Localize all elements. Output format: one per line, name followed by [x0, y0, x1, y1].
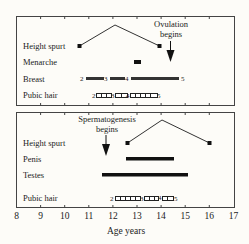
female-pubic-hair-bar: 2 3 4 5	[92, 92, 161, 100]
height-spurt-line	[128, 120, 210, 143]
ovulation-label: Ovulation	[154, 19, 189, 29]
row-label-height-spurt: Height spurt	[23, 138, 66, 148]
svg-text:14: 14	[156, 211, 166, 221]
testes-bar	[102, 173, 188, 177]
svg-text:2: 2	[92, 92, 96, 100]
row-label-pubic-hair: Pubic hair	[23, 90, 58, 100]
svg-text:16: 16	[205, 211, 215, 221]
x-axis: 8 9 10 11 12 13 14 15 16 17 Age years	[14, 211, 238, 236]
row-label-penis: Penis	[23, 154, 41, 164]
svg-text:5: 5	[157, 92, 161, 100]
puberty-timeline-chart: Height spurt Menarche Breast Pubic hair …	[0, 0, 249, 244]
svg-text:17: 17	[229, 211, 239, 221]
svg-text:10: 10	[60, 211, 70, 221]
svg-text:5: 5	[181, 75, 185, 83]
svg-text:13: 13	[132, 211, 142, 221]
row-label-menarche: Menarche	[23, 57, 57, 67]
x-axis-title: Age years	[107, 226, 146, 236]
menarche-bar	[134, 60, 141, 64]
svg-text:3: 3	[111, 92, 115, 100]
row-label-breast: Breast	[23, 74, 45, 84]
penis-bar	[126, 157, 174, 161]
svg-text:11: 11	[84, 211, 93, 221]
arrow-down-icon	[102, 144, 110, 156]
spermatogenesis-label: Spermatogenesis	[78, 114, 136, 124]
svg-text:begins: begins	[96, 124, 118, 134]
svg-text:begins: begins	[160, 29, 182, 39]
male-panel: Height spurt Penis Testes Pubic hair Spe…	[17, 113, 235, 208]
svg-text:15: 15	[180, 211, 190, 221]
row-label-height-spurt: Height spurt	[23, 41, 66, 51]
svg-text:4: 4	[125, 75, 129, 83]
svg-text:4: 4	[158, 194, 162, 202]
svg-text:2: 2	[110, 195, 114, 203]
svg-text:9: 9	[38, 211, 43, 221]
female-panel: Height spurt Menarche Breast Pubic hair …	[17, 17, 235, 106]
svg-text:8: 8	[14, 211, 19, 221]
height-spurt-line	[80, 25, 160, 46]
svg-text:3: 3	[104, 75, 108, 83]
arrow-down-icon	[167, 50, 175, 62]
svg-text:5: 5	[174, 195, 178, 203]
svg-text:3: 3	[140, 195, 144, 203]
row-label-pubic-hair: Pubic hair	[23, 193, 58, 203]
row-label-testes: Testes	[23, 170, 44, 180]
male-pubic-hair-bar: 2 3 4 5	[110, 194, 178, 203]
svg-text:2: 2	[80, 75, 84, 83]
svg-text:12: 12	[108, 211, 118, 221]
svg-text:4: 4	[126, 92, 130, 100]
